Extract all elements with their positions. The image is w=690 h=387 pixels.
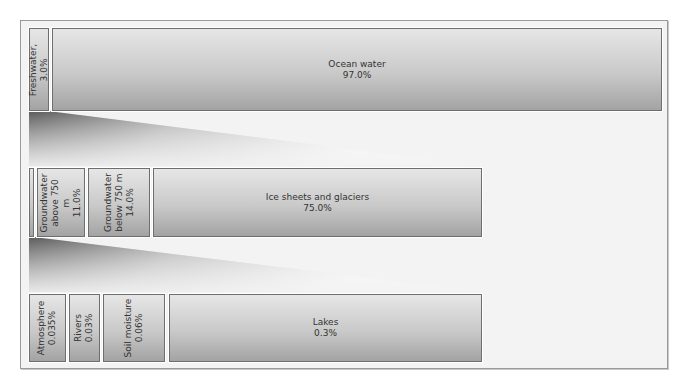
freshwater-expansion-wedge (29, 111, 482, 166)
groundwater-above-label: Groundwater above 750 m 11.0% (39, 173, 83, 232)
surface-water-expansion-wedge (29, 237, 482, 292)
surface-water-sliver-box (29, 168, 34, 237)
rivers-box: Rivers 0.03% (69, 294, 100, 362)
soil-moisture-box: Soil moisture 0.06% (103, 294, 165, 362)
ice-sheets-label: Ice sheets and glaciers 75.0% (266, 192, 369, 214)
soil-moisture-label: Soil moisture 0.06% (123, 299, 145, 358)
ocean-water-label: Ocean water 97.0% (328, 59, 385, 81)
freshwater-box: Freshwater, 3.0% (29, 28, 49, 111)
atmosphere-box: Atmosphere 0.035% (29, 294, 66, 362)
ice-sheets-box: Ice sheets and glaciers 75.0% (153, 168, 482, 237)
freshwater-label: Freshwater, 3.0% (28, 43, 50, 95)
groundwater-below-label: Groundwater below 750 m 14.0% (103, 173, 136, 232)
groundwater-above-box: Groundwater above 750 m 11.0% (37, 168, 85, 237)
groundwater-below-box: Groundwater below 750 m 14.0% (88, 168, 150, 237)
lakes-box: Lakes 0.3% (169, 294, 482, 362)
ocean-water-box: Ocean water 97.0% (52, 28, 662, 111)
atmosphere-label: Atmosphere 0.035% (37, 301, 59, 355)
lakes-label: Lakes 0.3% (313, 317, 339, 339)
rivers-label: Rivers 0.03% (74, 314, 96, 343)
